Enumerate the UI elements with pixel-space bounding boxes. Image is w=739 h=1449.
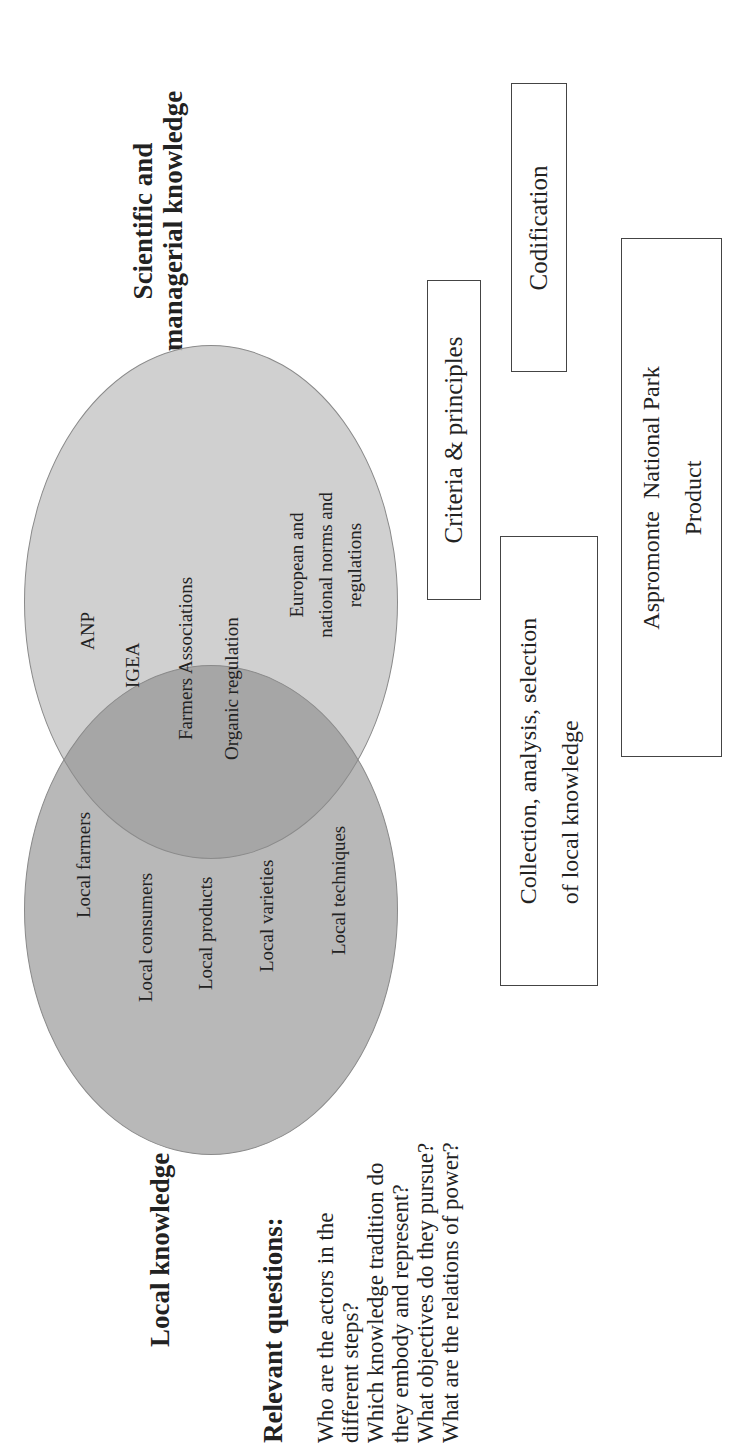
- venn-item-local-farmers: Local farmers: [73, 812, 95, 918]
- collection-analysis-box: Collection, analysis, selection of local…: [500, 536, 598, 986]
- venn-item-european-norms: European and national norms and regulati…: [282, 450, 369, 680]
- codification-label: Codification: [525, 165, 554, 290]
- question-line: Which knowledge tradition do: [363, 1142, 388, 1443]
- scientific-heading-line1: Scientific and: [128, 90, 158, 352]
- scientific-heading-line2: managerial knowledge: [158, 90, 188, 352]
- scientific-knowledge-heading: Scientific and managerial knowledge: [128, 90, 188, 352]
- question-line: Who are the actors in the: [313, 1142, 338, 1443]
- collection-analysis-label: Collection, analysis, selection of local…: [507, 618, 591, 905]
- collection-line1: Collection, analysis, selection: [507, 618, 549, 905]
- european-line2: national norms and: [311, 450, 340, 680]
- venn-item-igea: IGEA: [122, 643, 144, 688]
- aspromonte-line2: Product: [672, 366, 714, 629]
- criteria-principles-box: Criteria & principles: [427, 280, 481, 600]
- venn-item-local-techniques: Local techniques: [328, 826, 350, 955]
- question-line: What objectives do they pursue?: [413, 1142, 438, 1443]
- venn-item-anp: ANP: [77, 612, 99, 650]
- european-line1: European and: [282, 450, 311, 680]
- question-line: they embody and represent?: [388, 1142, 413, 1443]
- aspromonte-product-label: Aspromonte National Park Product: [630, 366, 714, 629]
- criteria-principles-label: Criteria & principles: [440, 337, 469, 544]
- relevant-questions-heading: Relevant questions:: [258, 1217, 289, 1443]
- venn-item-local-varieties: Local varieties: [256, 860, 278, 972]
- european-line3: regulations: [340, 450, 369, 680]
- venn-item-organic-regulation: Organic regulation: [221, 617, 243, 760]
- codification-box: Codification: [511, 83, 567, 372]
- venn-item-local-products: Local products: [195, 877, 217, 990]
- aspromonte-product-box: Aspromonte National Park Product: [621, 238, 722, 757]
- venn-item-local-consumers: Local consumers: [135, 873, 157, 1002]
- venn-item-farmers-associations: Farmers Associations: [175, 577, 197, 740]
- question-line: What are the relations of power?: [438, 1142, 463, 1443]
- question-line: different steps?: [338, 1142, 363, 1443]
- aspromonte-line1: Aspromonte National Park: [630, 366, 672, 629]
- local-knowledge-heading: Local knowledge: [145, 1153, 176, 1347]
- relevant-questions-list: Who are the actors in the different step…: [313, 1142, 463, 1443]
- collection-line2: of local knowledge: [549, 618, 591, 905]
